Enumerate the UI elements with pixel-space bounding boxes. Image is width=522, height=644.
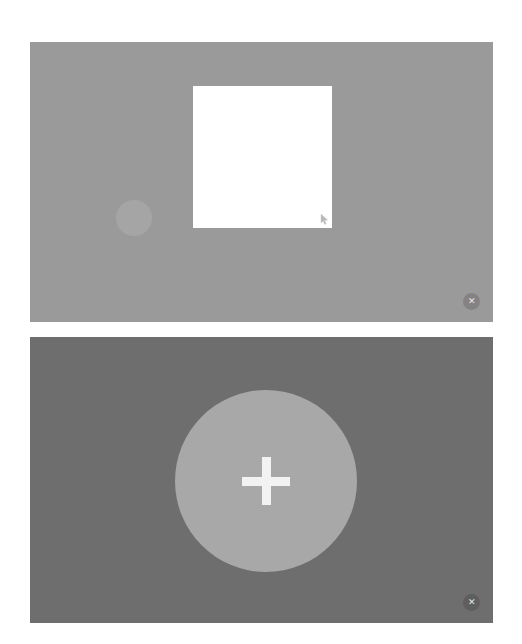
close-button[interactable]: ✕ bbox=[463, 594, 480, 611]
screen-stack: ✕ ✕ bbox=[0, 0, 522, 644]
white-document-square[interactable] bbox=[193, 86, 332, 228]
close-icon: ✕ bbox=[468, 598, 476, 607]
upper-media-panel[interactable]: ✕ bbox=[30, 42, 493, 322]
plus-icon bbox=[242, 457, 290, 505]
close-button[interactable]: ✕ bbox=[463, 293, 480, 310]
add-circle-button[interactable] bbox=[175, 390, 357, 572]
lower-media-panel[interactable]: ✕ bbox=[30, 337, 493, 623]
close-icon: ✕ bbox=[468, 297, 476, 306]
light-gray-dot bbox=[116, 200, 152, 236]
